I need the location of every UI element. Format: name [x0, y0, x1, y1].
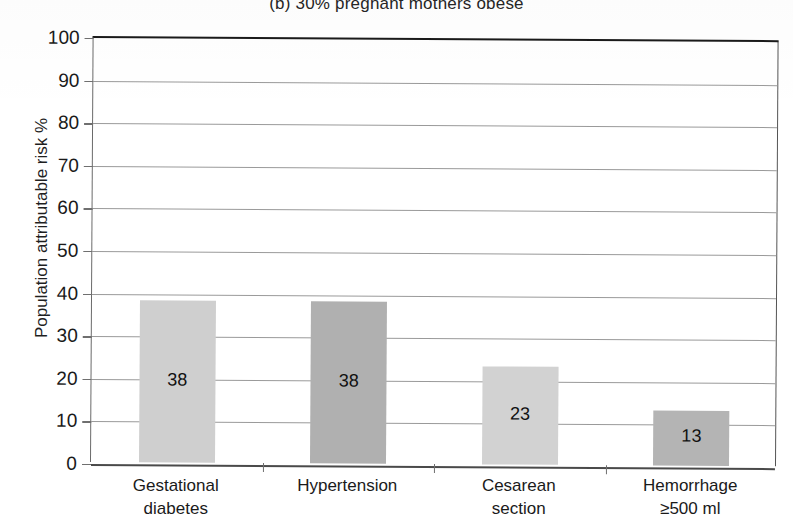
bar-value-label: 38: [311, 370, 387, 391]
y-axis-tick-label: 90: [58, 69, 79, 91]
gridline: [92, 251, 776, 256]
y-axis-tick: [85, 38, 94, 39]
x-axis-label-line: Cesarean: [433, 474, 605, 497]
x-axis-label-line: Hemorrhage: [605, 474, 777, 497]
bar-series: 38382313: [94, 38, 778, 42]
x-axis-tick: [262, 463, 263, 472]
x-axis-label-line: Hypertension: [262, 474, 434, 497]
y-axis-tick-label: 70: [58, 155, 79, 177]
bar: 13: [653, 410, 729, 466]
bar: 23: [482, 366, 559, 464]
gridline: [93, 123, 777, 128]
y-axis-tick-label: 20: [56, 368, 77, 390]
y-axis-tick-label: 30: [57, 325, 78, 347]
x-axis-ticks: [94, 38, 778, 42]
gridlines: [94, 38, 778, 42]
x-axis-label-line: diabetes: [90, 497, 262, 520]
x-axis-tick: [434, 464, 435, 473]
y-axis-tick: [83, 294, 92, 295]
y-axis-tick: [84, 208, 93, 209]
y-axis: 0102030405060708090100: [94, 38, 778, 42]
gridline: [93, 166, 777, 171]
x-axis-label-line: Gestational: [90, 474, 262, 497]
y-axis-tick-label: 10: [56, 410, 77, 432]
y-axis-tick-label: 0: [66, 453, 77, 475]
gridline: [93, 81, 777, 86]
y-axis-tick: [84, 81, 93, 82]
y-axis-tick: [83, 251, 92, 252]
y-axis-tick-label: 80: [58, 112, 79, 134]
chart-figure: (b) 30% pregnant mothers obese Populatio…: [0, 0, 793, 532]
chart-title: (b) 30% pregnant mothers obese: [0, 0, 793, 14]
x-axis-tick: [605, 465, 606, 474]
gridline: [92, 294, 776, 299]
y-axis-tick-label: 100: [48, 27, 80, 49]
y-axis-tick: [82, 379, 91, 380]
x-axis-label: Gestationaldiabetes: [90, 474, 262, 520]
x-axis-label: Cesareansection: [433, 474, 605, 520]
bar-value-label: 13: [653, 426, 729, 447]
x-axis-label-line: section: [433, 497, 605, 520]
x-axis-label-line: ≥500 ml: [605, 497, 777, 520]
y-axis-tick-label: 40: [57, 282, 78, 304]
y-axis-tick-label: 60: [57, 197, 78, 219]
y-axis-tick: [83, 336, 92, 337]
gridline: [93, 208, 777, 213]
x-axis-label: Hemorrhage≥500 ml: [605, 474, 777, 520]
y-axis-title: Population attributable risk %: [32, 28, 52, 428]
bar-value-label: 23: [482, 403, 558, 424]
y-axis-tick: [82, 464, 91, 465]
y-axis-tick: [84, 166, 93, 167]
y-axis-tick: [82, 421, 91, 422]
bar: 38: [310, 301, 387, 463]
y-axis-tick-label: 50: [57, 240, 78, 262]
bar: 38: [139, 300, 216, 462]
bar-value-label: 38: [139, 369, 215, 390]
plot-area: 0102030405060708090100 38382313: [90, 36, 779, 466]
y-axis-tick: [84, 123, 93, 124]
x-axis-label: Hypertension: [262, 474, 434, 497]
